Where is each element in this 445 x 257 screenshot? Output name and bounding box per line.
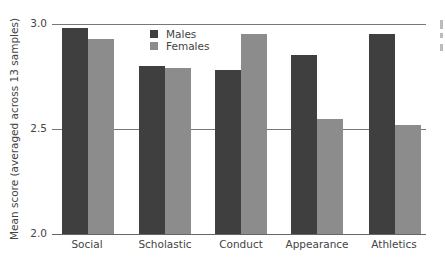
cropped-text-fragment: [440, 33, 443, 38]
x-tick-social: Social: [47, 238, 127, 250]
bar-athletics-females: [395, 125, 421, 234]
gridline-3.0: [52, 24, 426, 25]
cropped-text-fragment: [440, 20, 443, 29]
bar-conduct-males: [215, 70, 241, 234]
bar-conduct-females: [241, 34, 267, 234]
legend: Males Females: [150, 28, 209, 52]
cropped-text-fragment: [440, 44, 443, 51]
legend-label-females: Females: [166, 40, 209, 52]
x-tick-scholastic: Scholastic: [125, 238, 205, 250]
y-tick-3.0: 3.0: [17, 17, 47, 29]
x-tick-conduct: Conduct: [201, 238, 281, 250]
legend-label-males: Males: [166, 28, 196, 40]
x-tick-athletics: Athletics: [354, 238, 434, 250]
bar-scholastic-males: [139, 66, 165, 234]
x-tick-appearance: Appearance: [277, 238, 357, 250]
bar-athletics-males: [369, 34, 395, 234]
legend-item-males: Males: [150, 28, 209, 40]
x-axis-line: [52, 234, 426, 235]
legend-item-females: Females: [150, 40, 209, 52]
y-tick-2.5: 2.5: [17, 122, 47, 134]
bar-social-males: [62, 28, 88, 234]
legend-swatch-females: [150, 42, 158, 50]
bar-social-females: [88, 39, 114, 234]
bar-appearance-males: [291, 55, 317, 234]
legend-swatch-males: [150, 30, 158, 38]
bar-chart: Mean score (averaged across 13 samples) …: [0, 0, 445, 257]
bar-scholastic-females: [165, 68, 191, 234]
bar-appearance-females: [317, 119, 343, 234]
y-tick-2.0: 2.0: [17, 227, 47, 239]
